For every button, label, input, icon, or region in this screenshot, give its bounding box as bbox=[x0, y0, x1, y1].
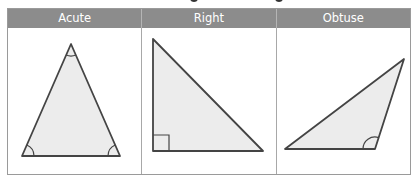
triangle-illustrations bbox=[0, 0, 416, 181]
obtuse-triangle-icon bbox=[285, 59, 404, 149]
right-triangle-icon bbox=[153, 39, 263, 151]
acute-triangle-icon bbox=[22, 44, 120, 156]
